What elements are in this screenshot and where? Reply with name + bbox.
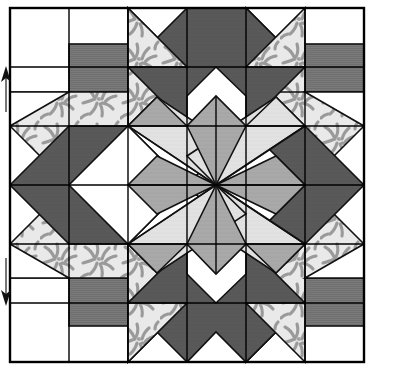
hatch-square-bottom-left <box>69 278 128 326</box>
hatch-square-top-left <box>69 44 128 92</box>
hatch-square-bottom-right <box>305 278 364 326</box>
quilt-block-canvas <box>0 0 397 383</box>
hatch-square-top-right <box>305 44 364 92</box>
quilt-block-figure: Pieced star quilt block diagram <box>0 0 397 383</box>
